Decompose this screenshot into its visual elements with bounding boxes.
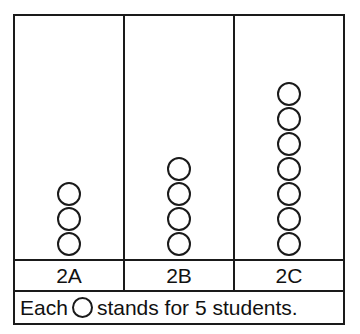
pictograph-symbol-circle <box>277 132 301 156</box>
pictograph-symbol-circle <box>277 207 301 231</box>
category-label-row: 2A 2B 2C <box>15 259 343 292</box>
pictograph-chart: 2A 2B 2C Each stands for 5 students. <box>13 14 345 325</box>
pictograph-symbol-circle <box>57 182 81 206</box>
pictograph-symbol-circle <box>57 207 81 231</box>
symbol-stack-2a <box>57 182 81 256</box>
pictograph-symbol-circle <box>277 82 301 106</box>
pictograph-symbol-circle <box>167 207 191 231</box>
legend-text-after: stands for 5 students. <box>97 296 298 320</box>
pictograph-symbol-circle <box>277 182 301 206</box>
pictograph-symbol-circle <box>277 157 301 181</box>
pictograph-symbol-circle <box>167 182 191 206</box>
pictograph-symbol-circle <box>277 232 301 256</box>
pictograph-column-2c <box>235 16 343 259</box>
legend-key-row: Each stands for 5 students. <box>15 292 343 323</box>
pictograph-column-2b <box>125 16 235 259</box>
category-label-2a: 2A <box>15 261 125 290</box>
pictograph-symbol-circle <box>277 107 301 131</box>
symbol-stack-2b <box>167 157 191 256</box>
category-label-2c: 2C <box>235 261 343 290</box>
pictograph-symbol-circle <box>167 232 191 256</box>
category-label-2b: 2B <box>125 261 235 290</box>
pictograph-column-2a <box>15 16 125 259</box>
pictograph-plot-area <box>15 16 343 259</box>
pictograph-symbol-circle <box>167 157 191 181</box>
pictograph-symbol-circle <box>57 232 81 256</box>
legend-circle-icon <box>72 297 93 318</box>
symbol-stack-2c <box>277 82 301 256</box>
legend-text-before: Each <box>20 296 68 320</box>
